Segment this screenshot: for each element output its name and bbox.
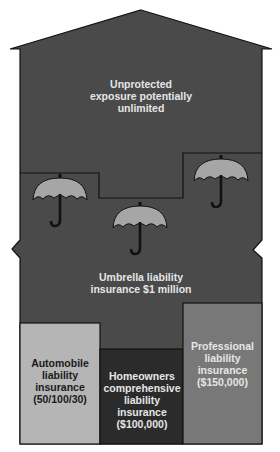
label-line: insurance <box>183 364 262 376</box>
homeowners-label: Homeowners comprehensive liability insur… <box>98 370 186 430</box>
label-line: unlimited <box>60 102 222 114</box>
label-line: insurance <box>98 406 186 418</box>
label-line: Homeowners <box>98 370 186 382</box>
label-line: insurance <box>20 381 100 393</box>
label-line: exposure potentially <box>60 90 222 102</box>
label-line: comprehensive <box>98 382 186 394</box>
professional-label: Professional liability insurance ($150,0… <box>183 340 262 388</box>
label-line: insurance $1 million <box>60 283 222 295</box>
unprotected-label: Unprotected exposure potentially unlimit… <box>60 78 222 114</box>
label-line: Automobile <box>20 357 100 369</box>
label-line: (50/100/30) <box>20 393 100 405</box>
label-line: liability <box>20 369 100 381</box>
umbrella-label: Umbrella liability insurance $1 million <box>60 271 222 295</box>
label-line: Professional <box>183 340 262 352</box>
label-line: Unprotected <box>60 78 222 90</box>
label-line: liability <box>98 394 186 406</box>
automobile-label: Automobile liability insurance (50/100/3… <box>20 357 100 405</box>
label-line: Umbrella liability <box>60 271 222 283</box>
label-line: ($150,000) <box>183 376 262 388</box>
label-line: ($100,000) <box>98 418 186 430</box>
label-line: liability <box>183 352 262 364</box>
